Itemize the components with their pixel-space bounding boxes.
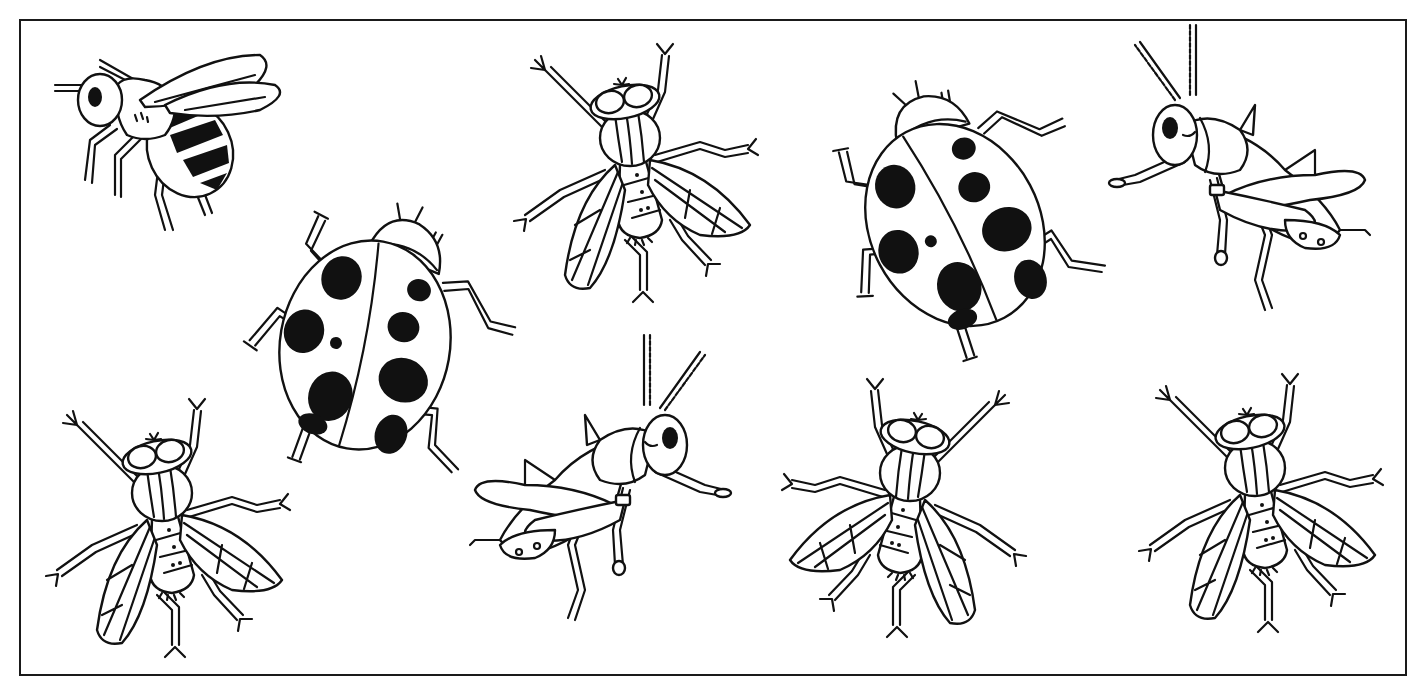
insect-fly-icon — [1139, 374, 1383, 632]
insect-layer — [46, 25, 1383, 657]
insect-fly-icon — [514, 44, 758, 302]
insect-grasshopper-icon — [470, 335, 731, 620]
insect-ladybug-icon — [212, 166, 543, 516]
insect-fly-icon — [782, 379, 1026, 637]
insect-fly-icon — [46, 399, 290, 657]
insect-bee-icon — [55, 55, 280, 230]
insect-grasshopper-icon — [1109, 25, 1370, 310]
insect-canvas — [0, 0, 1422, 681]
insect-ladybug-icon — [800, 42, 1125, 387]
worksheet — [0, 0, 1422, 681]
